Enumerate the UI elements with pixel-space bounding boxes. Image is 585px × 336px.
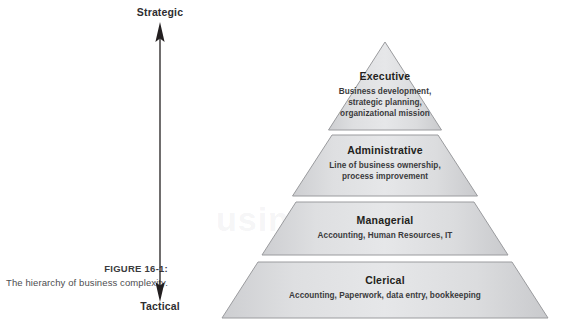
hierarchy-pyramid: usiness Value Mission Executive Business… <box>196 32 574 328</box>
pyramid-tier-clerical <box>222 262 548 318</box>
pyramid-tier-executive <box>329 42 442 130</box>
pyramid-shapes <box>196 32 574 328</box>
pyramid-tier-administrative <box>293 135 478 196</box>
pyramid-tier-managerial <box>262 202 508 255</box>
